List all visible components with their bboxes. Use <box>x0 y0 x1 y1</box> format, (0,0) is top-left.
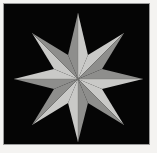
image-canvas: Eight-Pointed LeMoyne Star Quilt Block q… <box>0 0 157 153</box>
eight-pointed-star <box>0 0 157 153</box>
